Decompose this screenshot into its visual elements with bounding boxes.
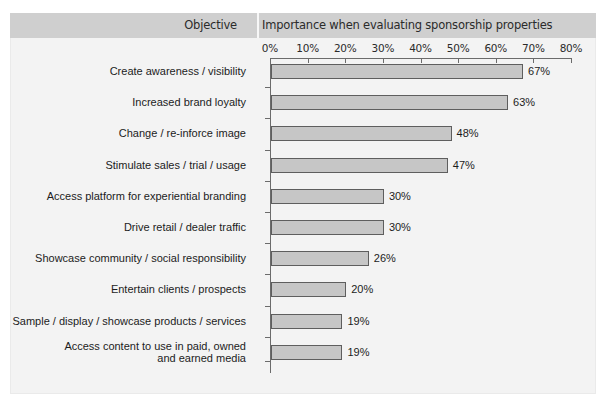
- bar: [271, 95, 508, 110]
- x-axis-tick-mark: [270, 58, 271, 63]
- y-axis-tick-mark: [265, 87, 270, 88]
- x-axis-tick-label: 10%: [288, 42, 328, 54]
- x-axis-tick-label: 70%: [513, 42, 553, 54]
- bar-value-label: 47%: [453, 158, 475, 173]
- category-label-line: Drive retail / dealer traffic: [0, 221, 246, 234]
- y-axis-tick-mark: [265, 181, 270, 182]
- x-axis-tick-mark: [571, 58, 572, 63]
- bar: [271, 345, 342, 360]
- x-axis-tick-label: 20%: [325, 42, 365, 54]
- y-axis-tick-mark: [265, 150, 270, 151]
- x-axis-tick-labels: 0%10%20%30%40%50%60%70%80%: [0, 42, 608, 56]
- bar: [271, 64, 523, 79]
- category-label: Increased brand loyalty: [0, 96, 258, 109]
- bar: [271, 126, 452, 141]
- bar-row: Showcase community / social responsibili…: [0, 251, 608, 282]
- x-axis-tick-mark: [383, 58, 384, 63]
- category-label: Drive retail / dealer traffic: [0, 221, 258, 234]
- bar-value-label: 63%: [513, 95, 535, 110]
- x-axis-tick-label: 40%: [401, 42, 441, 54]
- bar: [271, 282, 346, 297]
- x-axis-tick-mark: [458, 58, 459, 63]
- category-label-line: Entertain clients / prospects: [0, 283, 246, 296]
- bar-row: Create awareness / visibility67%: [0, 64, 608, 95]
- category-label-line: Showcase community / social responsibili…: [0, 252, 246, 265]
- category-label: Change / re-inforce image: [0, 127, 258, 140]
- x-axis-tick-label: 80%: [551, 42, 591, 54]
- x-axis-tick-mark: [421, 58, 422, 63]
- category-label-line: Access content to use in paid, owned: [0, 340, 246, 353]
- bar-value-label: 26%: [374, 251, 396, 266]
- category-label-line: Stimulate sales / trial / usage: [0, 159, 246, 172]
- x-axis-tick-label: 30%: [363, 42, 403, 54]
- category-label: Stimulate sales / trial / usage: [0, 159, 258, 172]
- bar: [271, 220, 384, 235]
- category-label-line: Increased brand loyalty: [0, 96, 246, 109]
- y-axis-tick-mark: [265, 337, 270, 338]
- y-axis-end-tick-mark: [265, 361, 270, 362]
- x-axis-tick-mark: [533, 58, 534, 63]
- x-axis-tick-label: 50%: [438, 42, 478, 54]
- category-label-line: Sample / display / showcase products / s…: [0, 315, 246, 328]
- category-label-line: and earned media: [0, 352, 246, 365]
- bar-value-label: 30%: [389, 189, 411, 204]
- category-label: Sample / display / showcase products / s…: [0, 315, 258, 328]
- bar-row: Increased brand loyalty63%: [0, 95, 608, 126]
- category-label: Access content to use in paid, ownedand …: [0, 340, 258, 365]
- y-axis-tick-mark: [265, 274, 270, 275]
- header-importance-label: Importance when evaluating sponsorship p…: [262, 13, 552, 38]
- bar: [271, 314, 342, 329]
- category-label: Showcase community / social responsibili…: [0, 252, 258, 265]
- bar-value-label: 48%: [457, 126, 479, 141]
- category-label-line: Access platform for experiential brandin…: [0, 190, 246, 203]
- bar-value-label: 19%: [347, 345, 369, 360]
- bar-row: Drive retail / dealer traffic30%: [0, 220, 608, 251]
- bar-row: Change / re-inforce image48%: [0, 126, 608, 157]
- bar-value-label: 30%: [389, 220, 411, 235]
- bar: [271, 251, 369, 266]
- x-axis-tick-mark: [345, 58, 346, 63]
- bar-row: Access platform for experiential brandin…: [0, 189, 608, 220]
- bar-row: Entertain clients / prospects20%: [0, 282, 608, 313]
- chart-screenshot: Objective Importance when evaluating spo…: [0, 0, 608, 407]
- x-axis-tick-label: 0%: [250, 42, 290, 54]
- y-axis-tick-mark: [265, 118, 270, 119]
- bar-value-label: 19%: [347, 314, 369, 329]
- y-axis-tick-mark: [265, 306, 270, 307]
- bar-row: Stimulate sales / trial / usage47%: [0, 158, 608, 189]
- bar: [271, 189, 384, 204]
- category-label: Entertain clients / prospects: [0, 283, 258, 296]
- bar-value-label: 67%: [528, 64, 550, 79]
- x-axis-tick-mark: [496, 58, 497, 63]
- bar-row: Access content to use in paid, ownedand …: [0, 345, 608, 376]
- header-divider: [257, 13, 259, 38]
- x-axis-tick-mark: [308, 58, 309, 63]
- x-axis-tick-label: 60%: [476, 42, 516, 54]
- y-axis-tick-mark: [265, 243, 270, 244]
- y-axis-tick-mark: [265, 212, 270, 213]
- bar: [271, 158, 448, 173]
- category-label: Access platform for experiential brandin…: [0, 190, 258, 203]
- header-objective-label: Objective: [10, 13, 247, 38]
- category-label-line: Change / re-inforce image: [0, 127, 246, 140]
- bar-value-label: 20%: [351, 282, 373, 297]
- category-label: Create awareness / visibility: [0, 65, 258, 78]
- category-label-line: Create awareness / visibility: [0, 65, 246, 78]
